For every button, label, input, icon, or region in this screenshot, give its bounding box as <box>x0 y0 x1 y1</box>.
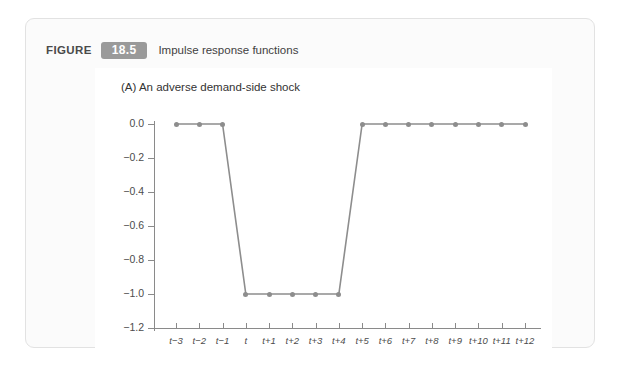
data-point-marker <box>360 122 365 127</box>
x-axis-tick <box>316 323 317 329</box>
y-axis-tick-label: −0.4 <box>123 185 144 197</box>
y-axis-tick-label: −1.0 <box>123 287 144 299</box>
plot-area: 0.0−0.2−0.4−0.6−0.8−1.0−1.2t−3t−2t−1tt+1… <box>154 124 539 328</box>
data-point-marker <box>267 292 272 297</box>
figure-caption-text: Impulse response functions <box>158 44 298 56</box>
x-axis-tick <box>432 323 433 329</box>
x-axis-tick <box>339 323 340 329</box>
x-axis-tick-label: t+1 <box>262 335 275 346</box>
data-point-marker <box>313 292 318 297</box>
x-axis-tick-label: t+2 <box>286 335 299 346</box>
data-point-marker <box>499 122 504 127</box>
x-axis-tick-label: t+10 <box>469 335 488 346</box>
x-axis-tick <box>525 323 526 329</box>
data-point-marker <box>290 292 295 297</box>
x-axis-tick-label: t+5 <box>355 335 368 346</box>
x-axis-tick-label: t+3 <box>309 335 322 346</box>
x-axis-tick <box>199 323 200 329</box>
y-axis-tick: −1.2 <box>148 328 154 329</box>
chart-title: (A) An adverse demand-side shock <box>121 81 300 93</box>
data-point-marker <box>476 122 481 127</box>
x-axis-tick <box>502 323 503 329</box>
data-point-marker <box>523 122 528 127</box>
x-axis-tick <box>385 323 386 329</box>
y-axis-tick-label: −0.6 <box>123 219 144 231</box>
x-axis-tick-label: t+7 <box>402 335 415 346</box>
x-axis-tick <box>292 323 293 329</box>
data-point-marker <box>383 122 388 127</box>
data-point-marker <box>174 122 179 127</box>
data-point-marker <box>197 122 202 127</box>
y-axis-tick: −0.8 <box>148 260 154 261</box>
x-axis-tick-label: t−2 <box>193 335 206 346</box>
figure-number-badge: 18.5 <box>101 42 148 59</box>
x-axis-tick-label: t+9 <box>448 335 461 346</box>
x-axis-tick-label: t−1 <box>216 335 229 346</box>
data-point-marker <box>336 292 341 297</box>
x-axis-tick <box>269 323 270 329</box>
x-axis-tick-label: t+4 <box>332 335 345 346</box>
y-axis-tick: −0.6 <box>148 226 154 227</box>
screenshot-root: FIGURE 18.5 Impulse response functions (… <box>0 0 625 373</box>
x-axis-tick-label: t+12 <box>516 335 535 346</box>
y-axis-tick: −0.2 <box>148 158 154 159</box>
x-axis-tick <box>223 323 224 329</box>
x-axis-tick-label: t−3 <box>169 335 182 346</box>
x-axis-tick <box>478 323 479 329</box>
x-axis-tick <box>246 323 247 329</box>
x-axis-tick-label: t+8 <box>425 335 438 346</box>
x-axis-tick <box>362 323 363 329</box>
figure-caption-bar: FIGURE 18.5 Impulse response functions <box>46 41 298 59</box>
y-axis-tick-label: −0.2 <box>123 151 144 163</box>
data-point-marker <box>220 122 225 127</box>
y-axis-tick: 0.0 <box>148 124 154 125</box>
figure-label: FIGURE <box>46 44 92 56</box>
figure-card: FIGURE 18.5 Impulse response functions (… <box>25 18 595 348</box>
y-axis-tick-label: −1.2 <box>123 321 144 333</box>
y-axis-tick: −1.0 <box>148 294 154 295</box>
x-axis-tick <box>176 323 177 329</box>
x-axis-tick-label: t+11 <box>493 335 511 346</box>
y-axis-tick-label: −0.8 <box>123 253 144 265</box>
x-axis-tick <box>455 323 456 329</box>
y-axis-tick: −0.4 <box>148 192 154 193</box>
data-point-marker <box>406 122 411 127</box>
y-axis-tick-label: 0.0 <box>129 117 144 129</box>
data-point-marker <box>243 292 248 297</box>
data-point-marker <box>453 122 458 127</box>
plot-panel: (A) An adverse demand-side shock 0.0−0.2… <box>95 68 552 360</box>
x-axis-tick <box>409 323 410 329</box>
impulse-response-series <box>146 116 547 336</box>
x-axis-tick-label: t <box>244 335 247 346</box>
x-axis-tick-label: t+6 <box>379 335 392 346</box>
